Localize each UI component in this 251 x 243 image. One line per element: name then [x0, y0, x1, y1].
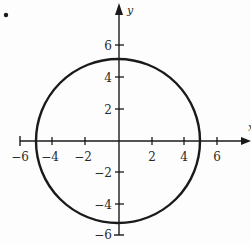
y-axis-arrow-icon	[115, 3, 123, 15]
y-tick-label: 2	[104, 103, 112, 117]
circle-graph: −6 −4 −2 2 4 6 6 4 2 −2 −4 −6 y x	[0, 0, 251, 243]
y-tick-label: −6	[94, 228, 112, 242]
y-tick-label: 6	[104, 39, 112, 53]
y-tick-label: −2	[94, 166, 112, 180]
y-tick-label: 4	[104, 71, 112, 85]
x-tick-label: 4	[180, 150, 188, 164]
y-axis-label: y	[126, 4, 134, 17]
x-tick-label: −4	[41, 150, 59, 164]
x-tick-label: −2	[74, 150, 92, 164]
problem-marker-dot	[4, 13, 8, 17]
x-axis-arrow-icon	[241, 137, 251, 145]
y-tick-label: −4	[94, 198, 112, 212]
x-tick-label: 2	[148, 150, 156, 164]
x-tick-label: −6	[11, 150, 29, 164]
x-axis-label: x	[248, 121, 251, 134]
x-tick-label: 6	[213, 150, 221, 164]
